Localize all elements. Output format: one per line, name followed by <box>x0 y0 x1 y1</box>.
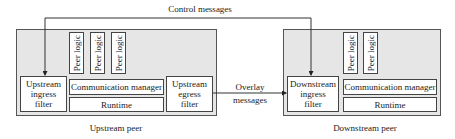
overlay-messages-label-line2: messages <box>220 95 280 105</box>
downstream-peer-caption: Downstream peer <box>310 123 420 133</box>
upstream-peer-caption: Upstream peer <box>66 123 166 133</box>
connector-lines <box>0 0 455 139</box>
control-messages-arrow-upstream <box>45 18 311 75</box>
control-messages-label: Control messages <box>150 4 250 14</box>
overlay-messages-label-line1: Overlay <box>220 82 280 92</box>
